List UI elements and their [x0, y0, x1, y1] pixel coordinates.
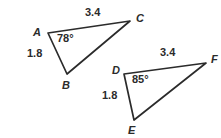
triangle-def-shape	[124, 63, 206, 120]
side-df-length-label: 3.4	[160, 47, 175, 58]
side-ab-length-label: 1.8	[27, 48, 42, 59]
vertex-label-a: A	[33, 27, 41, 38]
triangles-drawing	[0, 0, 221, 138]
vertex-label-e: E	[128, 125, 135, 136]
angle-a-label: 78°	[57, 33, 74, 44]
side-de-length-label: 1.8	[102, 90, 117, 101]
vertex-label-d: D	[112, 65, 120, 76]
geometry-figure-canvas: A B C 3.4 1.8 78° D E F 3.4 1.8 85°	[0, 0, 221, 138]
side-ac-length-label: 3.4	[85, 7, 100, 18]
vertex-label-f: F	[211, 54, 218, 65]
vertex-label-b: B	[62, 80, 70, 91]
angle-d-label: 85°	[132, 74, 149, 85]
vertex-label-c: C	[136, 13, 144, 24]
triangle-def-outline	[124, 63, 206, 120]
